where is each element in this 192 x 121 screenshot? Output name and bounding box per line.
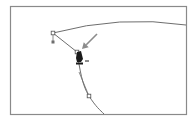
- anchor-bottom: [87, 94, 91, 98]
- handle-top-left-point: [52, 41, 55, 44]
- anchor-top-left: [51, 31, 55, 35]
- artboard-frame: [11, 7, 187, 115]
- path-diagram: [0, 0, 192, 121]
- illustration-canvas: [0, 0, 192, 121]
